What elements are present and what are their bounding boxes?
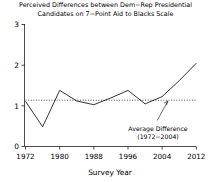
y-tick-label-1: 1 (14, 102, 19, 111)
annotation-arrow (157, 101, 168, 121)
y-tick-label-0: 0 (14, 142, 19, 151)
y-tick-label-2: 2 (14, 61, 19, 70)
x-tick-label-1980: 1980 (51, 152, 70, 161)
x-tick-label-1996: 1996 (119, 152, 138, 161)
x-axis-title: Survey Year (88, 168, 133, 177)
y-axis-ticks: 3 2 1 0 (14, 20, 24, 151)
x-axis-ticks: 1972 1980 1988 1996 2004 2012 (16, 147, 205, 161)
x-tick-label-2012: 2012 (187, 152, 205, 161)
annotation-text-line-2: (1972−2004) (137, 133, 179, 140)
y-tick-label-3: 3 (14, 20, 19, 29)
annotation-average-difference: Average Difference (1972−2004) (128, 125, 187, 140)
x-tick-label-1988: 1988 (85, 152, 104, 161)
perceived-difference-series-line (26, 63, 197, 127)
annotation-text-line-1: Average Difference (128, 125, 187, 133)
x-tick-label-1972: 1972 (16, 152, 34, 161)
chart-figure: Perceived Differences between Dem−Rep Pr… (0, 0, 211, 182)
chart-plot-area: 3 2 1 0 1972 1980 1988 1996 2004 2012 (0, 0, 211, 182)
x-tick-label-2004: 2004 (153, 152, 172, 161)
